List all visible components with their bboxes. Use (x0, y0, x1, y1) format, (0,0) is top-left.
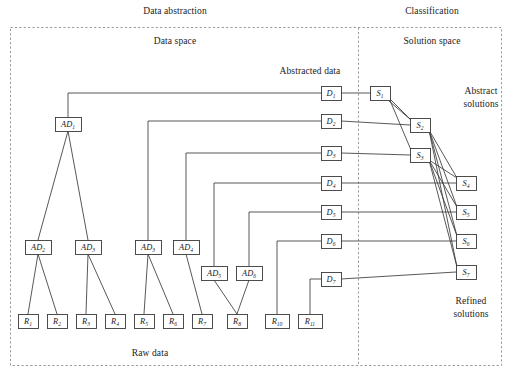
tree-edge-AD1-AD2 (38, 131, 68, 240)
tree-edge-AD5-R8 (214, 280, 237, 314)
abstraction-edge-R10-D6 (277, 241, 321, 314)
abstraction-edge-AD5-D4 (214, 183, 321, 266)
refine-edge-S1-S2 (389, 101, 411, 120)
refine-edge-S3-S7 (429, 160, 457, 267)
abstraction-edge-AD1-D1 (68, 93, 321, 117)
node-S1[interactable]: S1 (371, 87, 391, 101)
node-S6[interactable]: S6 (457, 235, 477, 249)
node-S2[interactable]: S2 (411, 119, 431, 133)
node-R7[interactable]: R7 (193, 315, 213, 329)
node-R10[interactable]: R10 (266, 315, 290, 329)
tree-edge-AD3a-R4 (88, 254, 115, 314)
tree-edge-AD2-R1 (28, 254, 38, 314)
node-D6[interactable]: D6 (322, 235, 342, 249)
tree-edge-AD3b-R5 (144, 254, 148, 314)
classify-edge-D3-S3 (341, 153, 410, 155)
tree-edge-AD1-AD3a (68, 131, 88, 240)
node-D2[interactable]: D2 (322, 115, 342, 129)
tree-edge-AD4-R7 (186, 254, 202, 314)
node-S3[interactable]: S3 (411, 149, 431, 163)
node-D3[interactable]: D3 (322, 147, 342, 161)
node-AD3a[interactable]: AD3 (76, 241, 102, 255)
node-R3[interactable]: R3 (77, 315, 97, 329)
tree-edge-AD6-R8 (237, 280, 249, 314)
node-R6[interactable]: R6 (164, 315, 184, 329)
node-D4[interactable]: D4 (322, 177, 342, 191)
node-AD3b[interactable]: AD3 (136, 241, 162, 255)
node-D5[interactable]: D5 (322, 206, 342, 220)
node-D7[interactable]: D7 (322, 273, 342, 287)
figure-canvas: Data abstraction Classification Data spa… (0, 0, 512, 383)
node-R8[interactable]: R8 (228, 315, 248, 329)
node-AD6[interactable]: AD6 (237, 267, 263, 281)
tree-edge-AD2-R2 (38, 254, 57, 314)
node-R11[interactable]: R11 (299, 315, 323, 329)
node-D1[interactable]: D1 (322, 87, 342, 101)
abstraction-edge-AD3b-D2 (148, 121, 321, 240)
abstraction-edge-AD6-D5 (249, 212, 321, 266)
node-AD4[interactable]: AD4 (174, 241, 200, 255)
node-S7[interactable]: S7 (457, 266, 477, 280)
node-S4[interactable]: S4 (457, 177, 477, 191)
node-R2[interactable]: R2 (48, 315, 68, 329)
node-AD5[interactable]: AD5 (202, 267, 228, 281)
diagram-svg: AD1AD2AD3AD3AD4AD5AD6R1R2R3R4R5R6R7R8R10… (0, 0, 512, 383)
node-R1[interactable]: R1 (19, 315, 39, 329)
node-R4[interactable]: R4 (106, 315, 126, 329)
node-S5[interactable]: S5 (457, 206, 477, 220)
node-R5[interactable]: R5 (135, 315, 155, 329)
nodes-layer: AD1AD2AD3AD3AD4AD5AD6R1R2R3R4R5R6R7R8R10… (19, 87, 477, 329)
tree-edge-AD3b-R6 (148, 254, 173, 314)
abstraction-edge-R11-D7 (310, 279, 321, 314)
node-AD2[interactable]: AD2 (26, 241, 52, 255)
node-AD1[interactable]: AD1 (56, 118, 82, 132)
tree-edge-AD3a-R3 (86, 254, 88, 314)
abstraction-edge-AD4-D3 (186, 153, 321, 240)
